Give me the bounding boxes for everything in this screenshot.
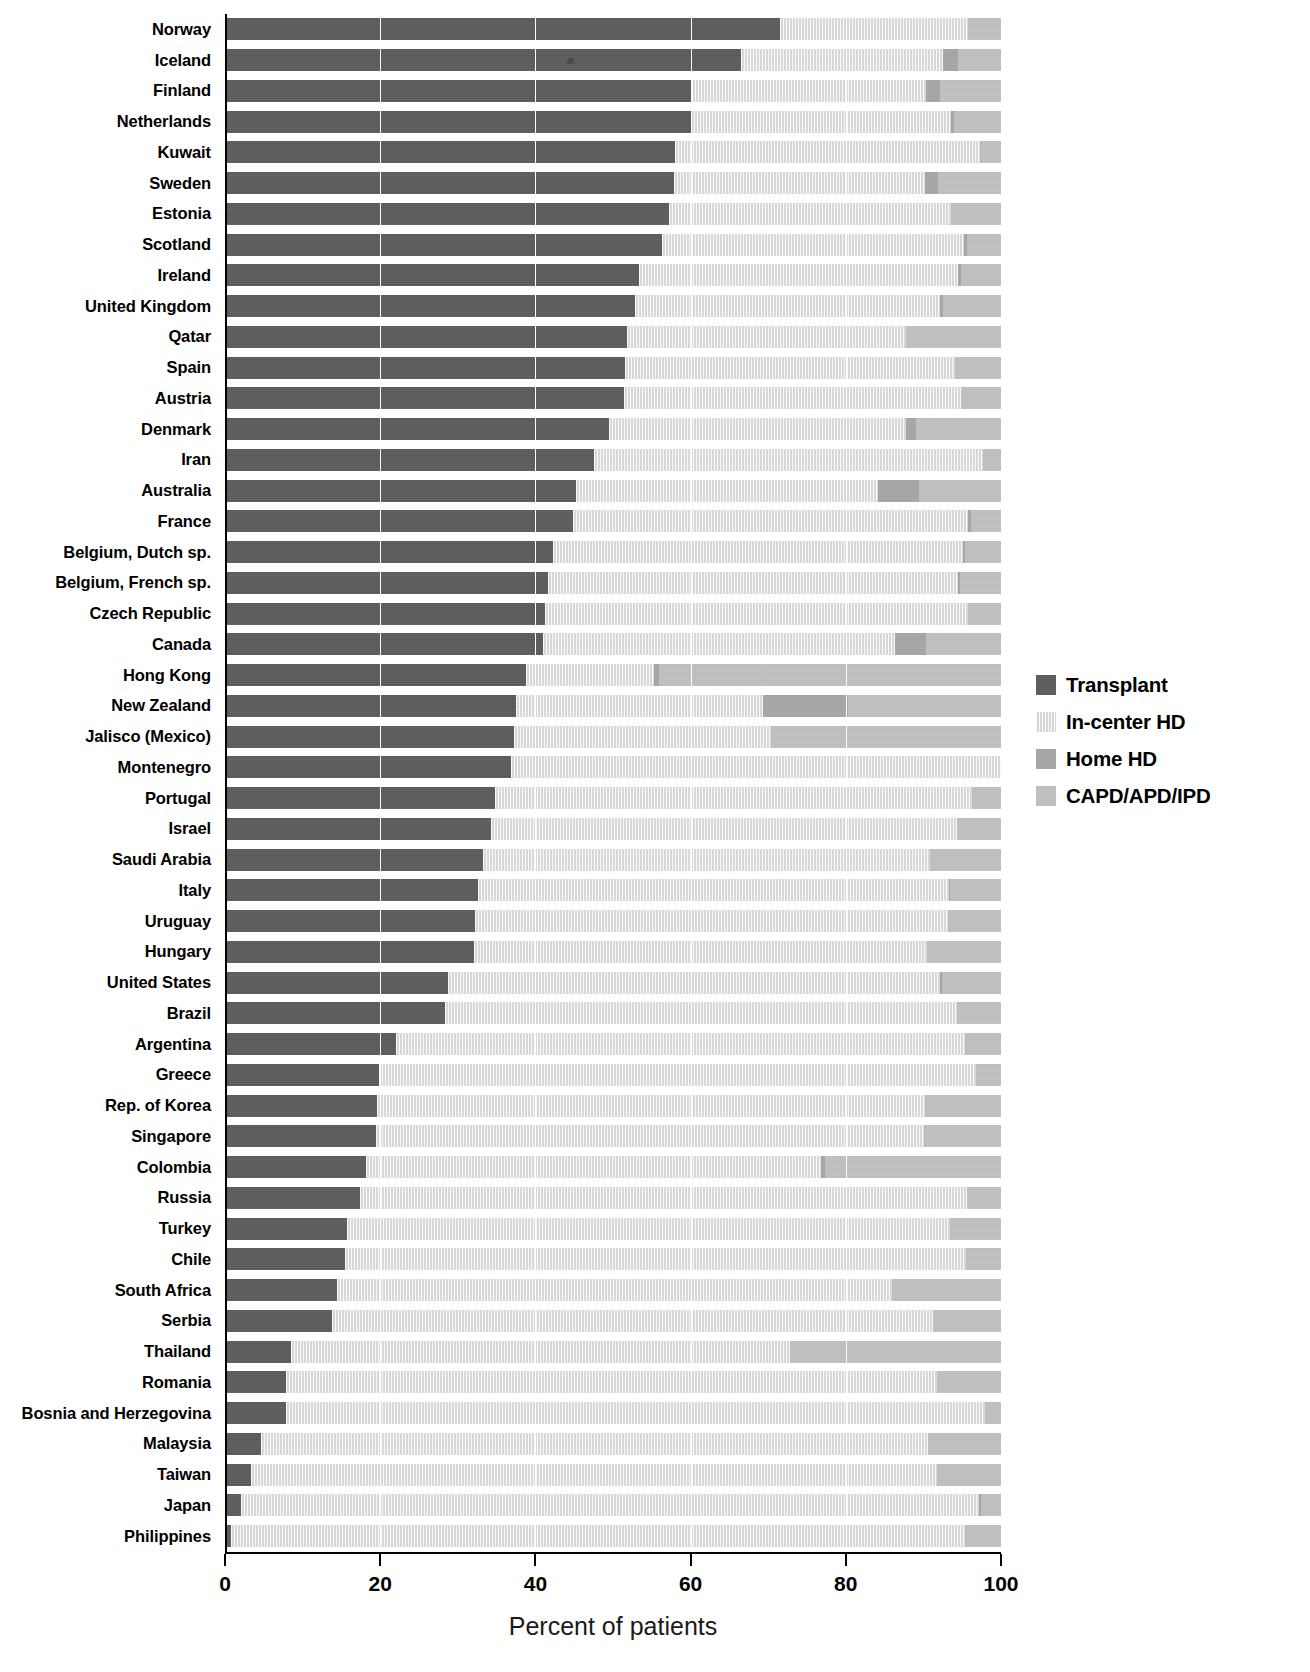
- bar-segment-transplant: [225, 1002, 445, 1024]
- bar-row: [225, 1306, 1001, 1337]
- bar-segment-capd-apd-ipd: [916, 418, 1001, 440]
- category-label: Chile: [0, 1244, 218, 1275]
- bar-segment-transplant: [225, 1187, 360, 1209]
- bar-track: [225, 1402, 1001, 1424]
- bar-row: [225, 875, 1001, 906]
- bar-track: [225, 295, 1001, 317]
- bar-row: [225, 598, 1001, 629]
- bar-segment-capd-apd-ipd: [983, 449, 1001, 471]
- bar-segment-in-center-hd: [526, 664, 654, 686]
- bar-segment-transplant: [225, 234, 662, 256]
- bar-segment-in-center-hd: [475, 910, 948, 932]
- category-label: Rep. of Korea: [0, 1090, 218, 1121]
- category-label: Estonia: [0, 199, 218, 230]
- bar-segment-transplant: [225, 849, 483, 871]
- bar-segment-transplant: [225, 510, 573, 532]
- bar-segment-in-center-hd: [231, 1525, 965, 1547]
- bar-segment-capd-apd-ipd: [968, 18, 1001, 40]
- category-label: South Africa: [0, 1275, 218, 1306]
- bar-row: [225, 1490, 1001, 1521]
- bar-segment-capd-apd-ipd: [933, 1310, 1001, 1332]
- bar-segment-transplant: [225, 80, 692, 102]
- bar-row: [225, 106, 1001, 137]
- bar-track: [225, 387, 1001, 409]
- bar-row: [225, 291, 1001, 322]
- gridline-40: [535, 14, 536, 1552]
- bar-segment-in-center-hd: [511, 756, 1001, 778]
- bar-segment-capd-apd-ipd: [961, 264, 1001, 286]
- bar-segment-transplant: [225, 603, 545, 625]
- bar-segment-transplant: [225, 879, 478, 901]
- bar-row: [225, 1213, 1001, 1244]
- bar-segment-in-center-hd: [345, 1248, 967, 1270]
- bar-segment-capd-apd-ipd: [957, 1002, 1001, 1024]
- bar-track: [225, 480, 1001, 502]
- category-label: Greece: [0, 1060, 218, 1091]
- bar-row: [225, 322, 1001, 353]
- stacked-bar-chart: NorwayIcelandFinlandNetherlandsKuwaitSwe…: [0, 0, 1310, 1672]
- bar-track: [225, 1279, 1001, 1301]
- category-label: Italy: [0, 875, 218, 906]
- bar-segment-home-hd: [943, 49, 959, 71]
- bar-row: [225, 260, 1001, 291]
- bar-segment-capd-apd-ipd: [919, 480, 1001, 502]
- category-label: Portugal: [0, 783, 218, 814]
- bar-segment-transplant: [225, 941, 474, 963]
- y-axis-line: [225, 14, 227, 1552]
- bar-segment-in-center-hd: [347, 1218, 950, 1240]
- bar-track: [225, 695, 1001, 717]
- category-label: Canada: [0, 629, 218, 660]
- bar-segment-capd-apd-ipd: [965, 1033, 1001, 1055]
- bar-segment-in-center-hd: [692, 80, 926, 102]
- bar-row: [225, 537, 1001, 568]
- bar-row: [225, 45, 1001, 76]
- category-label: Czech Republic: [0, 598, 218, 629]
- bar-segment-capd-apd-ipd: [966, 1248, 1001, 1270]
- bar-segment-in-center-hd: [516, 695, 763, 717]
- bar-segment-capd-apd-ipd: [927, 941, 1001, 963]
- bar-segment-in-center-hd: [609, 418, 906, 440]
- bar-segment-home-hd: [926, 80, 941, 102]
- category-label: Belgium, French sp.: [0, 568, 218, 599]
- bar-segment-transplant: [225, 1310, 332, 1332]
- bar-track: [225, 1064, 1001, 1086]
- legend-label: Transplant: [1066, 673, 1168, 697]
- legend-label: In-center HD: [1066, 710, 1185, 734]
- bar-row: [225, 445, 1001, 476]
- bar-segment-in-center-hd: [780, 18, 968, 40]
- bar-segment-in-center-hd: [741, 49, 943, 71]
- bar-track: [225, 633, 1001, 655]
- bar-row: [225, 506, 1001, 537]
- bar-segment-capd-apd-ipd: [659, 664, 1001, 686]
- bar-row: [225, 967, 1001, 998]
- bar-segment-transplant: [225, 695, 516, 717]
- bar-track: [225, 818, 1001, 840]
- bar-row: [225, 1121, 1001, 1152]
- bar-segment-in-center-hd: [291, 1341, 790, 1363]
- bar-row: [225, 844, 1001, 875]
- bar-row: [225, 1336, 1001, 1367]
- bar-segment-transplant: [225, 326, 627, 348]
- legend-swatch-icon: [1036, 712, 1056, 732]
- category-label: Thailand: [0, 1336, 218, 1367]
- bar-segment-in-center-hd: [286, 1402, 985, 1424]
- category-label: Austria: [0, 383, 218, 414]
- bar-segment-transplant: [225, 1464, 251, 1486]
- bar-row: [225, 814, 1001, 845]
- x-tick-mark: [224, 1554, 226, 1566]
- bar-segment-transplant: [225, 141, 675, 163]
- category-label: Singapore: [0, 1121, 218, 1152]
- bar-segment-capd-apd-ipd: [937, 1464, 1001, 1486]
- x-tick-mark: [534, 1554, 536, 1566]
- bar-segment-home-hd: [763, 695, 848, 717]
- bar-segment-transplant: [225, 1095, 377, 1117]
- bar-segment-transplant: [225, 418, 609, 440]
- category-label: Netherlands: [0, 106, 218, 137]
- x-tick-mark: [845, 1554, 847, 1566]
- x-axis-title: Percent of patients: [225, 1612, 1001, 1641]
- bar-segment-capd-apd-ipd: [938, 172, 1001, 194]
- bar-segment-in-center-hd: [337, 1279, 893, 1301]
- bar-row: [225, 1367, 1001, 1398]
- bar-track: [225, 726, 1001, 748]
- bar-row: [225, 998, 1001, 1029]
